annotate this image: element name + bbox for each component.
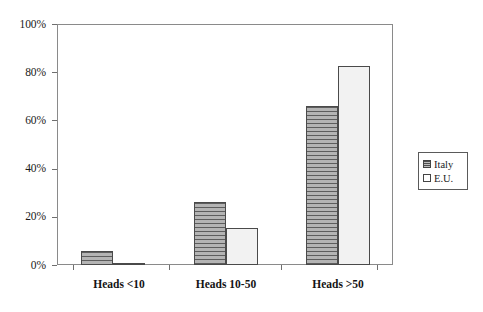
y-tick-label-0: 0% — [31, 260, 46, 272]
x-tick-mark-1 — [73, 265, 74, 270]
legend: Italy E.U. — [418, 152, 468, 190]
bar-italy-heads-gt-50 — [306, 106, 338, 265]
legend-item-eu: E.U. — [423, 171, 463, 185]
bar-italy-heads-lt-10 — [81, 251, 113, 266]
y-tick-label-100: 100% — [20, 19, 46, 31]
y-tick-label-20: 20% — [25, 211, 46, 223]
bar-italy-heads-10-50 — [194, 202, 226, 265]
hatched-gray-swatch-icon — [423, 160, 431, 168]
legend-item-italy: Italy — [423, 157, 463, 171]
x-tick-label-heads-10-50: Heads 10-50 — [176, 278, 276, 291]
x-tick-mark-3 — [281, 265, 282, 270]
x-tick-label-heads-gt-50: Heads >50 — [288, 278, 388, 291]
legend-label-eu: E.U. — [434, 173, 453, 184]
x-tick-mark-4 — [377, 265, 378, 270]
bar-chart: 100% 80% 60% 40% 20% 0% Heads <10 Heads … — [0, 0, 483, 312]
bar-eu-heads-10-50 — [226, 228, 258, 265]
bar-eu-heads-gt-50 — [338, 66, 370, 265]
bars-layer — [57, 24, 393, 265]
bar-eu-heads-lt-10 — [113, 263, 145, 265]
y-tick-label-60: 60% — [25, 115, 46, 127]
legend-label-italy: Italy — [434, 159, 453, 170]
y-tick-mark-0 — [52, 265, 57, 266]
white-swatch-icon — [423, 174, 431, 182]
x-tick-mark-2 — [169, 265, 170, 270]
y-tick-label-40: 40% — [25, 163, 46, 175]
x-axis: Heads <10 Heads 10-50 Heads >50 — [57, 278, 393, 296]
y-tick-label-80: 80% — [25, 67, 46, 79]
y-axis: 100% 80% 60% 40% 20% 0% — [0, 0, 57, 312]
x-tick-label-heads-lt-10: Heads <10 — [69, 278, 169, 291]
